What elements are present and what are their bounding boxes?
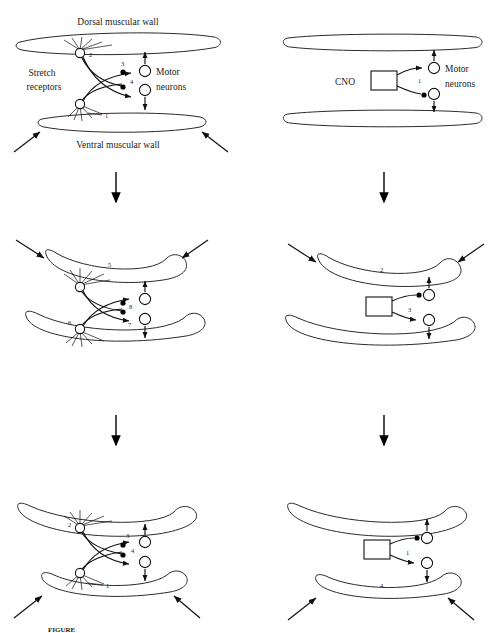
- motor-neuron-upper: [423, 289, 434, 300]
- panel-number-8: 8: [129, 303, 132, 310]
- dorsal-stretch-receptor: [75, 282, 84, 291]
- motor-neurons-label-line1: Motor: [445, 64, 470, 74]
- motor-neuron-upper: [139, 65, 150, 76]
- synapse-dot-upper: [120, 300, 125, 305]
- synapse-dot-upper: [120, 69, 125, 74]
- dorsal-muscular-wall: [283, 34, 482, 51]
- motor-neurons-label-line2: neurons: [156, 82, 186, 92]
- motor-neuron-lower: [139, 556, 150, 567]
- synapse-dot-lower: [120, 552, 125, 557]
- motor-neuron-lower: [423, 314, 434, 325]
- panel-number-1: 1: [406, 549, 409, 556]
- motor-neurons-label-line2: neurons: [445, 79, 475, 89]
- motor-neuron-lower: [428, 88, 439, 99]
- dorsal-wall-label: Dorsal muscular wall: [77, 17, 159, 27]
- ventral-muscular-wall: [283, 110, 482, 127]
- cno-box: [364, 540, 390, 559]
- ventral-wall-label: Ventral muscular wall: [76, 140, 160, 150]
- panel-number-2: 2: [68, 521, 71, 528]
- synapse-dot-lower: [120, 309, 125, 314]
- stretch-receptors-label-line1: Stretch: [29, 68, 56, 78]
- panel-number-2: 2: [89, 51, 92, 58]
- dorsal-stretch-receptor: [75, 48, 84, 57]
- cno-box: [366, 297, 392, 316]
- cno-box: [371, 71, 397, 90]
- motor-neuron-lower: [139, 313, 150, 324]
- motor-neuron-upper: [139, 536, 150, 547]
- motor-neuron-lower: [421, 557, 432, 568]
- panel-number-5: 5: [108, 261, 111, 268]
- motor-neuron-upper: [428, 62, 439, 73]
- panel-number-1: 1: [106, 582, 109, 589]
- dorsal-stretch-receptor: [75, 523, 84, 532]
- motor-neuron-upper: [139, 293, 150, 304]
- synapse-dot-upper: [416, 292, 421, 297]
- stretch-receptors-label-line2: receptors: [27, 82, 62, 92]
- motor-neurons-label-line1: Motor: [156, 67, 181, 77]
- panel-number-2: 2: [380, 266, 383, 273]
- synapse-dot-upper: [120, 542, 125, 547]
- cno-label: CNO: [335, 77, 355, 87]
- figure-container: Dorsal muscular wall Ventral muscular wa…: [0, 0, 496, 633]
- figure-caption: FIGURE: [48, 626, 76, 633]
- panel-number-3: 3: [408, 306, 411, 313]
- panel-number-1: 1: [105, 112, 108, 119]
- motor-neuron-upper: [421, 532, 432, 543]
- panel-number-3: 3: [126, 532, 129, 539]
- synapse-dot-lower: [421, 92, 426, 97]
- motor-neuron-lower: [139, 84, 150, 95]
- synapse-dot-upper: [414, 535, 419, 540]
- ventral-muscular-wall: [38, 113, 206, 132]
- panel-number-3: 3: [121, 60, 124, 67]
- synapse-dot-lower: [120, 84, 125, 89]
- panel-number-1: 1: [418, 77, 421, 84]
